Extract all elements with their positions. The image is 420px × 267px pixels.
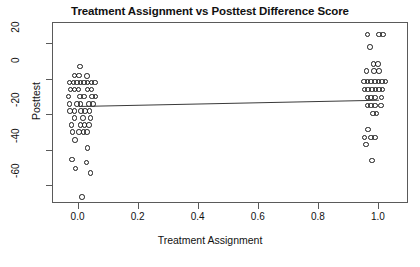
- chart-title: Treatment Assignment vs Posttest Differe…: [0, 5, 420, 17]
- y-tick-mark: [46, 79, 52, 80]
- regression-line: [79, 99, 379, 106]
- plot-area: [52, 22, 408, 203]
- y-tick-label: 20: [10, 22, 21, 62]
- x-tick-label: 0.2: [118, 211, 158, 222]
- x-axis-label: Treatment Assignment: [0, 234, 420, 246]
- x-tick-label: 0.0: [58, 211, 98, 222]
- y-tick-mark: [46, 43, 52, 44]
- y-tick-label: -20: [10, 93, 21, 133]
- x-tick-label: 1.0: [358, 211, 398, 222]
- y-tick-mark: [46, 150, 52, 151]
- y-tick-label: 0: [10, 57, 21, 97]
- x-tick-label: 0.6: [238, 211, 278, 222]
- y-tick-label: -40: [10, 128, 21, 168]
- x-tick-label: 0.8: [298, 211, 338, 222]
- x-tick-mark: [258, 203, 259, 209]
- scatter-plot-figure: Treatment Assignment vs Posttest Differe…: [0, 0, 420, 267]
- x-tick-mark: [138, 203, 139, 209]
- y-tick-mark: [46, 185, 52, 186]
- x-tick-mark: [198, 203, 199, 209]
- regression-line-layer: [53, 23, 407, 202]
- x-tick-mark: [78, 203, 79, 209]
- x-tick-mark: [378, 203, 379, 209]
- x-tick-mark: [318, 203, 319, 209]
- y-tick-label: -60: [10, 164, 21, 204]
- y-axis-label: Posttest: [30, 61, 42, 141]
- y-tick-mark: [46, 114, 52, 115]
- x-tick-label: 0.4: [178, 211, 218, 222]
